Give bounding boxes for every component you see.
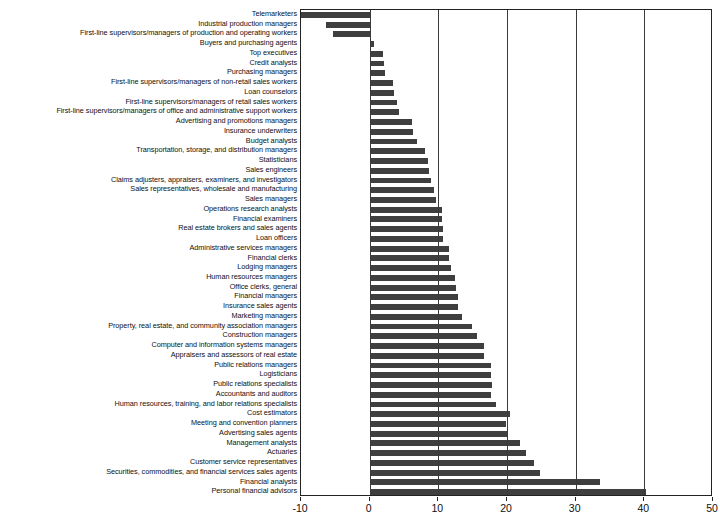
bar xyxy=(370,80,393,86)
category-label: Statisticians xyxy=(0,155,297,165)
bar xyxy=(370,460,535,466)
category-label: Human resources managers xyxy=(0,272,297,282)
bar-row xyxy=(301,205,711,215)
x-tick-label: 50 xyxy=(706,502,718,514)
category-label: Insurance underwriters xyxy=(0,126,297,136)
bar xyxy=(370,129,413,135)
bar-row xyxy=(301,29,711,39)
x-tick-mark xyxy=(300,497,301,501)
bar-row xyxy=(301,244,711,254)
category-label: Financial analysts xyxy=(0,477,297,487)
bar-row xyxy=(301,127,711,137)
bar xyxy=(301,12,370,18)
bar xyxy=(370,61,384,67)
bar-row xyxy=(301,409,711,419)
x-tick-mark xyxy=(437,497,438,501)
bar-row xyxy=(301,49,711,59)
bar-row xyxy=(301,215,711,225)
bar xyxy=(370,324,472,330)
category-label: Logisticians xyxy=(0,369,297,379)
bar xyxy=(370,216,443,222)
bar-row xyxy=(301,351,711,361)
bar xyxy=(370,207,443,213)
category-label: Buyers and purchasing agents xyxy=(0,38,297,48)
category-label: Advertising sales agents xyxy=(0,428,297,438)
category-label: Management analysts xyxy=(0,438,297,448)
bar xyxy=(370,178,432,184)
category-label: First-line supervisors/managers of non-r… xyxy=(0,77,297,87)
bar-row xyxy=(301,312,711,322)
bar xyxy=(370,343,484,349)
bar-row xyxy=(301,39,711,49)
bar-row xyxy=(301,322,711,332)
bar-row xyxy=(301,88,711,98)
category-label: Sales engineers xyxy=(0,165,297,175)
bar-row xyxy=(301,146,711,156)
bar-row xyxy=(301,419,711,429)
category-label: Operations research analysts xyxy=(0,204,297,214)
category-label: Cost estimators xyxy=(0,408,297,418)
bar xyxy=(370,479,600,485)
bar-row xyxy=(301,117,711,127)
bar xyxy=(370,363,491,369)
category-label: Accountants and auditors xyxy=(0,389,297,399)
bar xyxy=(370,294,458,300)
bar xyxy=(370,236,443,242)
bar-row xyxy=(301,107,711,117)
bar-row xyxy=(301,429,711,439)
bar-row xyxy=(301,292,711,302)
category-label: First-line supervisors/managers of produ… xyxy=(0,28,297,38)
category-label: Public relations specialists xyxy=(0,379,297,389)
bar-row xyxy=(301,458,711,468)
title-strip xyxy=(0,0,720,8)
category-label: First-line supervisors/managers of retai… xyxy=(0,97,297,107)
bar xyxy=(370,353,485,359)
x-tick-label: 40 xyxy=(637,502,649,514)
x-tick-mark xyxy=(369,497,370,501)
bar-row xyxy=(301,185,711,195)
bar xyxy=(370,158,428,164)
bar-row xyxy=(301,380,711,390)
category-label: Office clerks, general xyxy=(0,282,297,292)
category-label: Budget analysts xyxy=(0,136,297,146)
category-label: Meeting and convention planners xyxy=(0,418,297,428)
gridline-20 xyxy=(507,10,508,495)
bar xyxy=(326,22,370,28)
bar xyxy=(370,304,458,310)
bar xyxy=(370,197,436,203)
category-label: Sales managers xyxy=(0,194,297,204)
bar-row xyxy=(301,176,711,186)
x-tick-mark xyxy=(643,497,644,501)
category-label: Top executives xyxy=(0,48,297,58)
bar-row xyxy=(301,448,711,458)
category-label: Construction managers xyxy=(0,330,297,340)
x-tick-mark xyxy=(575,497,576,501)
category-label: Actuaries xyxy=(0,447,297,457)
category-label: Appraisers and assessors of real estate xyxy=(0,350,297,360)
bar-row-list xyxy=(301,10,711,495)
bar-row xyxy=(301,224,711,234)
bar-row xyxy=(301,234,711,244)
bar xyxy=(370,226,443,232)
category-label: Personal financial advisors xyxy=(0,486,297,496)
bar xyxy=(370,90,395,96)
category-label: Transportation, storage, and distributio… xyxy=(0,145,297,155)
category-label: Loan officers xyxy=(0,233,297,243)
bar-row xyxy=(301,361,711,371)
bar xyxy=(370,100,397,106)
category-label: Computer and information systems manager… xyxy=(0,340,297,350)
bar xyxy=(370,168,429,174)
bar-row xyxy=(301,478,711,488)
bar xyxy=(370,119,413,125)
plot-area xyxy=(300,9,712,496)
x-axis: -1001020304050 xyxy=(300,497,712,527)
bar xyxy=(370,333,478,339)
x-tick-mark xyxy=(712,497,713,501)
x-tick-label: 0 xyxy=(366,502,372,514)
bar-row xyxy=(301,487,711,497)
bar-row xyxy=(301,390,711,400)
bar-row xyxy=(301,254,711,264)
bar xyxy=(370,392,492,398)
bar xyxy=(370,187,434,193)
category-label: Administrative services managers xyxy=(0,243,297,253)
